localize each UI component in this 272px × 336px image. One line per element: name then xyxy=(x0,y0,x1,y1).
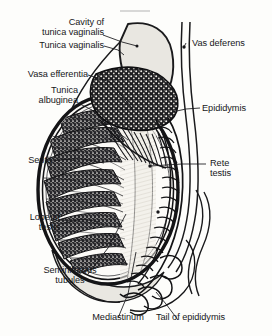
label-cavity-of-tunica-vaginalis: Cavity of tunica vaginalis xyxy=(10,17,104,38)
label-vas-deferens: Vas deferens xyxy=(192,38,272,48)
label-tunica-albuginea: Tunica albuginea xyxy=(8,85,78,106)
label-tunica-vaginalis: Tunica vaginalis xyxy=(8,40,104,50)
label-rete-testis: Rete testis xyxy=(210,158,262,179)
testis-anatomy-figure: Cavity of tunica vaginalis Tunica vagina… xyxy=(0,0,272,336)
label-lobe-of-testis: Lobe of testis xyxy=(4,212,60,233)
label-seminiferous-tubules: Seminiferous tubules xyxy=(20,265,120,286)
label-epididymis: Epididymis xyxy=(202,103,272,113)
label-tail-of-epididymis: Tail of epididymis xyxy=(156,312,272,322)
label-vasa-efferentia: Vasa efferentia xyxy=(6,69,88,79)
label-septa: Septa xyxy=(4,155,52,165)
